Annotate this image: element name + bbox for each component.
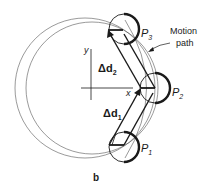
label-p3: P3 [141, 27, 152, 41]
delta-d1-vector-right [124, 93, 153, 145]
label-path: path [176, 38, 194, 48]
label-y-axis: y [83, 45, 89, 55]
delta-d2-arrowhead [107, 30, 114, 38]
delta-d2-vector-left [110, 34, 141, 88]
motion-path-leader-arrowhead [148, 47, 154, 52]
label-motion: Motion [170, 26, 197, 36]
motion-path-diagram: P3 P2 P1 Δd2 Δd1 y x Motion path b [0, 0, 213, 190]
label-p1: P1 [141, 142, 152, 156]
panel-label: b [93, 172, 99, 183]
label-delta-d1: Δd1 [103, 107, 122, 121]
label-x-axis: x [125, 88, 131, 98]
label-p2: P2 [172, 86, 183, 100]
label-delta-d2: Δd2 [98, 62, 117, 76]
delta-d1-vector-left [109, 93, 138, 145]
